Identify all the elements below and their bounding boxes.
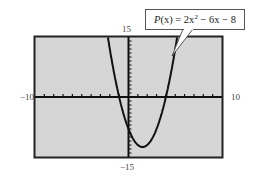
x-max-label: 10 — [231, 93, 240, 102]
function-eq: = 2x — [173, 14, 195, 25]
x-min-label: −10 — [20, 93, 34, 102]
function-rest: − 6x − 8 — [198, 14, 236, 25]
function-callout: P(x) = 2x2 − 6x − 8 — [145, 9, 245, 30]
callout-joint — [184, 28, 193, 30]
y-min-label: −15 — [120, 163, 134, 172]
function-arg: (x) — [160, 14, 172, 25]
y-max-label: 15 — [122, 25, 131, 34]
